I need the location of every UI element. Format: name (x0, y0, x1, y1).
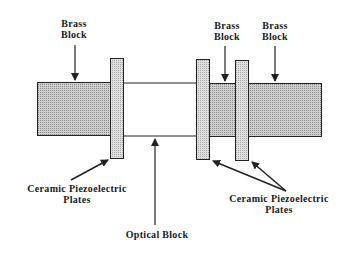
arrow-ceramic-right-2 (252, 162, 286, 191)
piezo-plate-2 (197, 60, 210, 160)
label-brass-block-left: Brass Block (55, 18, 93, 40)
brass-block-right (249, 84, 322, 137)
arrow-ceramic-left (71, 160, 108, 180)
label-ceramic-plates-right: Ceramic Piezoelectric Plates (214, 193, 344, 215)
label-line: Ceramic Piezoelectric (12, 183, 142, 194)
optical-block (123, 83, 196, 136)
label-line: Ceramic Piezoelectric (214, 193, 344, 204)
piezo-assembly-diagram (0, 0, 354, 255)
label-line: Block (55, 29, 93, 40)
label-ceramic-plates-left: Ceramic Piezoelectric Plates (12, 183, 142, 205)
arrow-ceramic-right-1 (213, 161, 286, 191)
label-line: Brass (208, 20, 246, 31)
label-optical-block: Optical Block (112, 229, 202, 240)
label-line: Plates (12, 194, 142, 205)
label-brass-block-middle: Brass Block (208, 20, 246, 42)
label-line: Brass (55, 18, 93, 29)
label-brass-block-right: Brass Block (256, 20, 294, 42)
brass-block-middle (210, 84, 236, 137)
piezo-plate-1 (111, 59, 124, 159)
brass-block-left (38, 83, 111, 136)
label-line: Brass (256, 20, 294, 31)
label-line: Optical Block (112, 229, 202, 240)
label-line: Block (208, 31, 246, 42)
label-line: Plates (214, 204, 344, 215)
piezo-plate-3 (236, 61, 249, 161)
label-line: Block (256, 31, 294, 42)
